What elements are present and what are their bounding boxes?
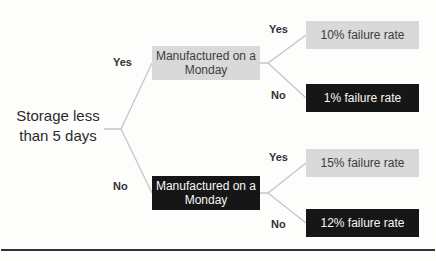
level2-bottom-yes-branch-line — [260, 163, 306, 193]
level1-yes-label: Yes — [113, 56, 132, 68]
level1-yes-branch-line — [104, 63, 152, 129]
level2-bottom-no-label: No — [271, 218, 286, 230]
leaf-1-percent-failure-rate: 1% failure rate — [306, 84, 419, 112]
level1-no-label: No — [113, 180, 128, 192]
decision-tree-diagram: Storage less than 5 days Yes No Manufact… — [0, 0, 436, 261]
leaf-10-percent-failure-rate: 10% failure rate — [306, 21, 419, 49]
leaf-15-percent-failure-rate: 15% failure rate — [306, 149, 419, 177]
level2-top-yes-branch-line — [260, 35, 306, 63]
root-node-label: Storage less than 5 days — [10, 106, 106, 146]
leaf-12-percent-failure-rate: 12% failure rate — [306, 209, 419, 237]
level2-bottom-yes-label: Yes — [269, 151, 288, 163]
bottom-divider-rule — [1, 249, 435, 251]
node-manufactured-monday-no: Manufactured on a Monday — [152, 176, 260, 210]
node-manufactured-monday-yes: Manufactured on a Monday — [152, 46, 260, 80]
level2-top-yes-label: Yes — [269, 23, 288, 35]
level2-top-no-label: No — [271, 89, 286, 101]
